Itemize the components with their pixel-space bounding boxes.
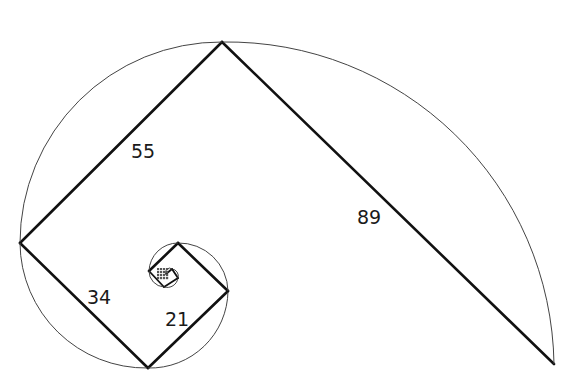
fibonacci-spiral-diagram: 89 55 34 21 [0,0,577,391]
label-55: 55 [131,142,155,161]
diagonal-segment [20,42,222,243]
diagonal-segment [178,243,228,291]
diagonal-segment [222,42,554,364]
label-21: 21 [165,310,189,329]
label-89: 89 [357,208,381,227]
spiral-drawing [0,0,577,391]
label-34: 34 [87,288,111,307]
diagonal-segment [20,243,148,368]
